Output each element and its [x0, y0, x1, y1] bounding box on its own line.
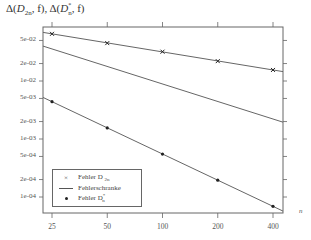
dot-marker-icon — [57, 197, 75, 200]
legend-item-fehlerschranke: Fehlerschranke — [57, 183, 121, 193]
y-tick-label: 5e-03 — [2, 93, 36, 101]
y-tick-label: 2e-02 — [2, 59, 36, 67]
legend-item-fehler-dn-star: Fehler D*n — [57, 193, 105, 203]
x-axis-label: n — [299, 207, 303, 215]
y-tick-label: 1e-03 — [2, 134, 36, 142]
y-tick-label: 5e-02 — [2, 35, 36, 43]
legend-item-fehler-d2n: × Fehler D 2n — [57, 173, 109, 183]
x-tick-label: 400 — [261, 222, 285, 231]
y-tick-label: 1e-04 — [2, 192, 36, 200]
x-tick-label: 25 — [40, 222, 64, 231]
x-tick-label: 50 — [95, 222, 119, 231]
y-tick-label: 5e-04 — [2, 151, 36, 159]
y-tick-label: 1e-02 — [2, 76, 36, 84]
plot-area — [0, 0, 311, 240]
cross-marker-icon: × — [57, 174, 75, 182]
y-tick-label: 2e-03 — [2, 117, 36, 125]
y-tick-label: 2e-04 — [2, 175, 36, 183]
x-tick-label: 200 — [206, 222, 230, 231]
legend: × Fehler D 2n Fehlerschranke Fehler D*n — [52, 169, 142, 207]
x-tick-label: 100 — [151, 222, 175, 231]
line-marker-icon — [57, 188, 75, 189]
